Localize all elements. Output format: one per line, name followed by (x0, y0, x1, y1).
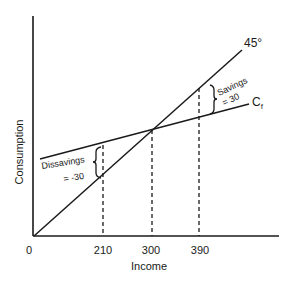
line-consumption-cf (40, 104, 249, 159)
x-tick-390: 390 (191, 244, 209, 256)
dissavings-value: = -30 (63, 171, 85, 184)
consumption-function-diagram: 0 210 300 390 Income Consumption 45° Cf … (0, 0, 293, 290)
label-cf: Cf (252, 95, 264, 111)
dissavings-brace (93, 147, 101, 178)
y-axis-label: Consumption (13, 120, 25, 185)
origin-label: 0 (26, 244, 32, 256)
x-tick-210: 210 (94, 244, 112, 256)
line-45-degree (34, 50, 242, 236)
label-cf-main: C (252, 95, 261, 109)
label-cf-sub: f (261, 102, 264, 111)
label-45-degree: 45° (244, 36, 262, 50)
x-axis-label: Income (131, 260, 167, 272)
x-tick-300: 300 (142, 244, 160, 256)
